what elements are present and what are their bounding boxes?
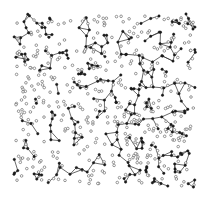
connected-node <box>128 165 130 167</box>
connected-node <box>150 17 152 19</box>
isolated-node <box>16 22 19 25</box>
connected-node <box>184 112 186 114</box>
connected-node <box>194 179 196 181</box>
isolated-node <box>103 24 106 27</box>
connected-node <box>116 138 118 140</box>
isolated-node <box>174 46 177 49</box>
isolated-node <box>177 145 180 148</box>
connected-node <box>34 98 36 100</box>
isolated-node <box>152 110 155 113</box>
isolated-node <box>124 173 127 176</box>
isolated-node <box>185 27 188 30</box>
isolated-node <box>26 167 29 170</box>
isolated-node <box>17 38 20 41</box>
connected-node <box>154 146 156 148</box>
isolated-node <box>149 148 152 151</box>
isolated-node <box>136 22 139 25</box>
isolated-node <box>119 79 122 82</box>
isolated-node <box>62 114 65 117</box>
isolated-node <box>38 96 41 99</box>
isolated-node <box>24 63 27 66</box>
isolated-node <box>53 76 56 79</box>
graph-edge <box>86 81 98 86</box>
connected-node <box>185 135 187 137</box>
isolated-node <box>37 74 40 77</box>
isolated-node <box>124 132 127 135</box>
isolated-node <box>63 22 66 25</box>
graph-edge <box>57 163 60 175</box>
connected-node <box>69 173 71 175</box>
connected-node <box>28 15 30 17</box>
connected-node <box>135 148 137 150</box>
connected-node <box>192 28 194 30</box>
isolated-node <box>140 31 143 34</box>
isolated-node <box>144 131 147 134</box>
isolated-node <box>96 32 99 35</box>
connected-node <box>75 166 77 168</box>
isolated-node <box>141 54 144 57</box>
connected-node <box>163 87 165 89</box>
connected-node <box>120 148 122 150</box>
isolated-node <box>130 121 133 124</box>
isolated-node <box>33 19 36 22</box>
connected-node <box>39 69 41 71</box>
isolated-node <box>64 66 67 69</box>
connected-node <box>187 61 189 63</box>
isolated-node <box>188 85 191 88</box>
connected-node <box>169 46 171 48</box>
connected-node <box>170 41 172 43</box>
isolated-node <box>40 160 43 163</box>
connected-node <box>127 161 129 163</box>
connected-node <box>51 33 53 35</box>
connected-node <box>148 98 150 100</box>
isolated-node <box>128 30 131 33</box>
isolated-node <box>89 58 92 61</box>
isolated-node <box>156 135 159 138</box>
connected-node <box>160 182 162 184</box>
isolated-node <box>146 174 149 177</box>
isolated-node <box>81 108 84 111</box>
connected-node <box>133 104 135 106</box>
isolated-node <box>36 49 39 52</box>
isolated-node <box>188 41 191 44</box>
isolated-node <box>64 128 67 131</box>
isolated-node <box>140 182 143 185</box>
connected-node <box>24 60 26 62</box>
connected-node <box>58 162 60 164</box>
graph-edge <box>118 42 121 54</box>
connected-node <box>178 131 180 133</box>
isolated-node <box>37 30 40 33</box>
isolated-node <box>52 155 55 158</box>
isolated-node <box>43 140 46 143</box>
isolated-node <box>20 116 23 119</box>
isolated-node <box>91 174 94 177</box>
isolated-node <box>176 131 179 134</box>
connected-node <box>74 123 76 125</box>
isolated-node <box>126 143 129 146</box>
connected-node <box>152 117 154 119</box>
isolated-node <box>21 109 24 112</box>
connected-node <box>36 22 38 24</box>
isolated-node <box>147 124 150 127</box>
connected-node <box>67 57 69 59</box>
isolated-node <box>83 149 86 152</box>
isolated-node <box>87 122 90 125</box>
isolated-node <box>133 26 136 29</box>
isolated-node <box>79 180 82 183</box>
isolated-node <box>127 154 130 157</box>
connected-node <box>129 173 131 175</box>
isolated-node <box>75 142 78 145</box>
isolated-node <box>21 157 24 160</box>
connected-node <box>50 139 52 141</box>
isolated-node <box>98 90 101 93</box>
connected-node <box>74 132 76 134</box>
connected-node <box>138 54 140 56</box>
graph-edge <box>162 112 173 117</box>
connected-node <box>73 137 75 139</box>
isolated-node <box>30 31 33 34</box>
isolated-node <box>167 168 170 171</box>
isolated-node <box>147 162 150 165</box>
connected-node <box>153 177 155 179</box>
isolated-node <box>17 110 20 113</box>
isolated-node <box>29 66 32 69</box>
